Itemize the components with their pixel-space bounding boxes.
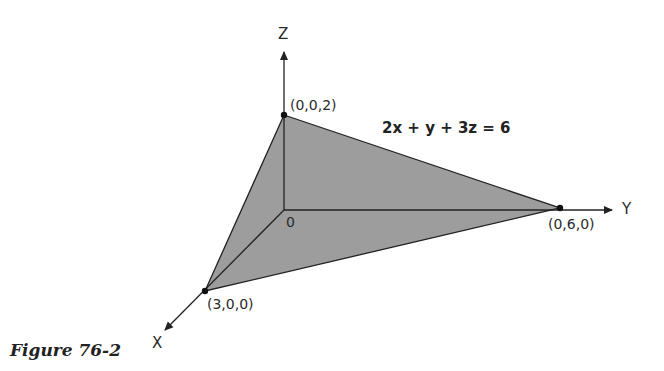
plane-equation: 2x + y + 3z = 6 bbox=[382, 119, 511, 137]
point-label-3-0-0: (3,0,0) bbox=[207, 296, 254, 312]
y-axis-label: Y bbox=[622, 200, 631, 218]
point-label-0-6-0: (0,6,0) bbox=[548, 216, 595, 232]
figure-caption: Figure 76-2 bbox=[10, 340, 121, 360]
point-0-0-2 bbox=[281, 112, 287, 118]
point-0-6-0 bbox=[557, 205, 563, 211]
plane-diagram bbox=[0, 0, 664, 371]
z-axis-label: Z bbox=[278, 25, 288, 43]
point-3-0-0 bbox=[202, 288, 208, 294]
plane-triangle bbox=[205, 115, 560, 291]
x-axis-label: X bbox=[152, 334, 162, 352]
origin-label: 0 bbox=[286, 214, 295, 230]
point-label-0-0-2: (0,0,2) bbox=[290, 97, 337, 113]
